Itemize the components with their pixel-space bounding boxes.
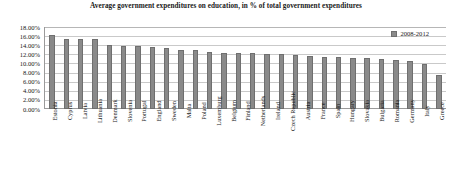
x-axis-tick: Slovakia bbox=[357, 110, 372, 182]
x-axis-tick: Czech Republic bbox=[283, 110, 298, 182]
x-axis-tick: Malta bbox=[179, 110, 194, 182]
x-axis-tick: Lithuania bbox=[89, 110, 104, 182]
bar-slot bbox=[231, 27, 245, 109]
x-axis-tick-label: Malta bbox=[186, 104, 193, 119]
x-axis-tick: Bulgaria bbox=[372, 110, 387, 182]
bar-slot bbox=[102, 27, 116, 109]
x-axis-tick: Belgium bbox=[223, 110, 238, 182]
x-axis-tick-label: Lithuania bbox=[97, 99, 104, 123]
bar-slot bbox=[274, 27, 288, 109]
x-axis-tick: Denmark bbox=[104, 110, 119, 182]
x-axis-tick: Latvia bbox=[75, 110, 90, 182]
bar bbox=[49, 35, 54, 109]
x-axis-tick: Germany bbox=[401, 110, 416, 182]
x-axis-tick: Poland bbox=[193, 110, 208, 182]
y-axis-tick-label: 6.00% bbox=[23, 78, 40, 85]
x-axis-tick-label: Netherlands bbox=[260, 96, 267, 126]
x-axis-tick: Spain bbox=[327, 110, 342, 182]
bar-slot bbox=[403, 27, 417, 109]
bar-slot bbox=[174, 27, 188, 109]
x-axis-tick-label: Luxemburg bbox=[216, 96, 223, 125]
y-axis-tick-label: 10.00% bbox=[20, 60, 40, 67]
bar-slot bbox=[417, 27, 431, 109]
x-axis-tick-label: Greece bbox=[439, 102, 446, 120]
x-axis-tick-label: Poland bbox=[201, 102, 208, 120]
x-axis-tick: Portugal bbox=[134, 110, 149, 182]
bar-slot bbox=[374, 27, 388, 109]
bar-slot bbox=[88, 27, 102, 109]
x-axis-tick: Netherlands bbox=[253, 110, 268, 182]
y-axis-tick-label: 4.00% bbox=[23, 87, 40, 94]
x-axis-tick-label: Sweden bbox=[171, 101, 178, 121]
x-axis-tick: Ireland bbox=[268, 110, 283, 182]
x-axis-tick-label: Portugal bbox=[141, 100, 148, 121]
bar-slot bbox=[360, 27, 374, 109]
x-axis-tick: Slovenia bbox=[119, 110, 134, 182]
x-axis-tick-label: Germany bbox=[409, 99, 416, 122]
bar-slot bbox=[432, 27, 446, 109]
y-axis-tick-label: 8.00% bbox=[23, 69, 40, 76]
bar bbox=[322, 57, 327, 109]
x-axis-tick-label: Latvia bbox=[82, 103, 89, 119]
legend-swatch-icon bbox=[391, 31, 397, 37]
y-axis: 18.00%16.00%14.00%12.00%10.00%8.00%6.00%… bbox=[0, 22, 42, 114]
bar-chart: Average government expenditures on educa… bbox=[0, 0, 451, 183]
bar-slot bbox=[331, 27, 345, 109]
y-axis-tick-label: 2.00% bbox=[23, 96, 40, 103]
bar-slot bbox=[159, 27, 173, 109]
x-axis-tick-label: Denmark bbox=[112, 99, 119, 122]
y-axis-tick-label: 12.00% bbox=[20, 51, 40, 58]
bar-slot bbox=[131, 27, 145, 109]
legend-label: 2008-2012 bbox=[400, 30, 429, 37]
x-axis-tick: Greece bbox=[431, 110, 446, 182]
x-axis-tick: Romania bbox=[387, 110, 402, 182]
x-axis-tick-label: Finland bbox=[245, 101, 252, 120]
bar bbox=[164, 48, 169, 109]
bar-slot bbox=[45, 27, 59, 109]
bar bbox=[178, 50, 183, 109]
x-axis-tick-label: France bbox=[320, 102, 327, 119]
bar-series-2008-2012 bbox=[45, 27, 446, 109]
bar-slot bbox=[59, 27, 73, 109]
bar bbox=[135, 46, 140, 109]
x-axis-tick-label: Bulgaria bbox=[379, 100, 386, 122]
x-axis-tick-label: Cyprus bbox=[67, 102, 74, 120]
x-axis-tick-label: Belgium bbox=[231, 100, 238, 122]
x-axis: EstoniaCyprusLatviaLithuaniaDenmarkSlove… bbox=[45, 110, 446, 182]
y-axis-tick-label: 18.00% bbox=[20, 24, 40, 31]
x-axis-tick-label: Slovenia bbox=[127, 100, 134, 122]
bar-slot bbox=[116, 27, 130, 109]
x-axis-tick-label: England bbox=[156, 101, 163, 122]
bar bbox=[193, 50, 198, 109]
x-axis-tick: Estonia bbox=[45, 110, 60, 182]
y-axis-tick-label: 16.00% bbox=[20, 33, 40, 40]
y-axis-tick-label: 14.00% bbox=[20, 42, 40, 49]
x-axis-tick-label: Slovakia bbox=[364, 100, 371, 122]
bar bbox=[279, 54, 284, 109]
chart-legend: 2008-2012 bbox=[391, 30, 429, 37]
bar-slot bbox=[245, 27, 259, 109]
chart-title: Average government expenditures on educa… bbox=[46, 2, 406, 12]
bar bbox=[207, 52, 212, 109]
bar bbox=[78, 39, 83, 109]
x-axis-tick: France bbox=[312, 110, 327, 182]
x-axis-tick-label: Spain bbox=[335, 104, 342, 118]
x-axis-tick: Luxemburg bbox=[208, 110, 223, 182]
x-axis-tick-label: Ireland bbox=[275, 102, 282, 120]
x-axis-tick: Finland bbox=[238, 110, 253, 182]
bar bbox=[422, 64, 427, 109]
x-axis-tick-label: Czech Republic bbox=[290, 91, 297, 131]
x-axis-tick-label: Hungary bbox=[349, 100, 356, 122]
bar-slot bbox=[346, 27, 360, 109]
x-axis-tick: Sweden bbox=[164, 110, 179, 182]
x-axis-tick: Austria bbox=[297, 110, 312, 182]
bar-slot bbox=[73, 27, 87, 109]
x-axis-tick: England bbox=[149, 110, 164, 182]
bar-slot bbox=[145, 27, 159, 109]
x-axis-tick-label: Austria bbox=[305, 102, 312, 121]
bar bbox=[64, 39, 69, 109]
bar-slot bbox=[303, 27, 317, 109]
bar bbox=[336, 57, 341, 109]
x-axis-tick-label: Romania bbox=[394, 100, 401, 123]
x-axis-tick-label: Italy bbox=[424, 105, 431, 117]
